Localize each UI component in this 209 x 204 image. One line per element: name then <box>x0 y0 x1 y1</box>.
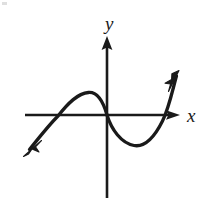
cubic-curve-path <box>30 76 177 150</box>
x-axis-label: x <box>186 105 196 126</box>
x-axis-group <box>25 110 180 120</box>
graph-figure: y x <box>0 0 209 204</box>
curve-group <box>24 71 180 157</box>
curve-start-arrowhead-icon <box>24 141 42 157</box>
coordinate-plane-svg: y x <box>0 0 209 204</box>
y-axis-label: y <box>103 13 114 34</box>
